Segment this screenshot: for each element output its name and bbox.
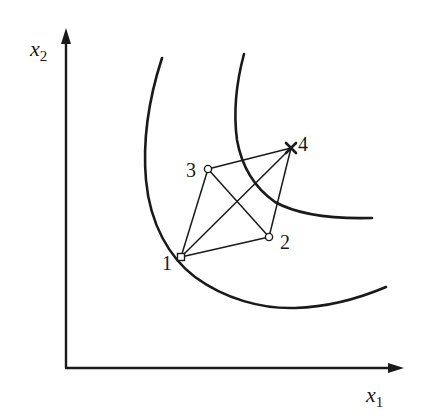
simplex-diagram: x2 x1 1 2 3 4: [0, 0, 423, 420]
point-1-square-marker: [178, 254, 185, 261]
edge-2-4: [269, 148, 291, 237]
x-axis-label: x1: [365, 382, 383, 410]
point-3-circle-marker: [204, 165, 211, 172]
y-axis-arrow-icon: [61, 28, 71, 44]
y-axis-label: x2: [29, 36, 47, 64]
point-4-label: 4: [298, 133, 308, 155]
edge-3-4: [208, 148, 291, 169]
point-3: 3: [186, 159, 212, 181]
inner-indifference-curve: [145, 58, 386, 308]
point-2-circle-marker: [265, 233, 272, 240]
point-2-label: 2: [280, 231, 290, 253]
point-4: 4: [286, 133, 308, 155]
point-2: 2: [265, 231, 290, 253]
x-axis-arrow-icon: [388, 363, 404, 373]
edge-1-2: [181, 237, 269, 257]
point-3-label: 3: [186, 159, 196, 181]
point-1-label: 1: [162, 252, 172, 274]
